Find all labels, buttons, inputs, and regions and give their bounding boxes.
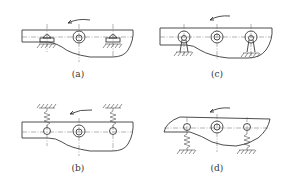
rotation-arrow-icon	[68, 19, 90, 23]
panel-d-label: (d)	[211, 163, 224, 173]
panel-a	[22, 19, 133, 62]
pinned-link-right	[241, 24, 260, 60]
roller-support-left	[37, 24, 56, 52]
pinned-link-left	[174, 24, 193, 56]
panel-d	[164, 108, 270, 154]
spring-support-left	[177, 117, 196, 154]
panel-c	[160, 16, 272, 60]
rotation-arrow-icon	[70, 110, 92, 114]
spring-support-left	[37, 104, 56, 146]
spring-support-right	[103, 104, 122, 152]
rotation-arrow-icon	[210, 16, 230, 20]
rotation-arrow-icon	[210, 108, 230, 112]
spring-support-right	[237, 117, 256, 154]
cam-follower-diagram	[0, 0, 288, 188]
panel-c-label: (c)	[211, 69, 223, 79]
panel-b-label: (b)	[72, 163, 85, 173]
panel-a-label: (a)	[72, 69, 84, 79]
panel-b	[22, 104, 133, 156]
roller-support-right	[103, 24, 122, 56]
plate-outline	[22, 30, 133, 57]
